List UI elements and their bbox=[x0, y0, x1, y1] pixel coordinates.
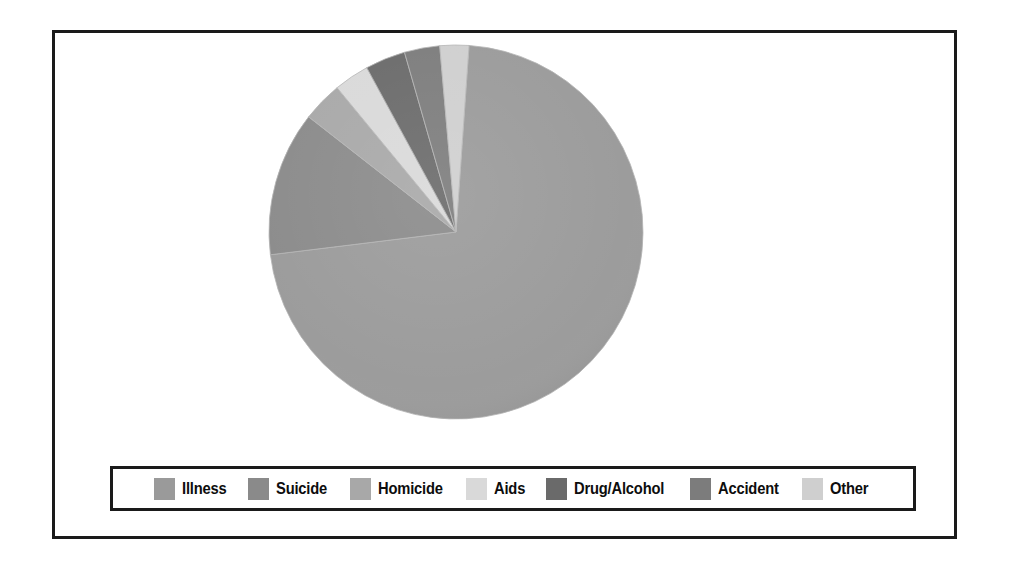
legend-item-drug-alcohol[interactable]: Drug/Alcohol bbox=[546, 478, 672, 500]
legend-swatch-icon bbox=[466, 478, 487, 500]
pie-chart bbox=[266, 42, 646, 422]
legend-item-aids[interactable]: Aids bbox=[466, 478, 528, 500]
legend-item-label: Accident bbox=[718, 480, 779, 498]
legend-item-label: Other bbox=[830, 480, 868, 498]
legend-swatch-icon bbox=[350, 478, 371, 500]
legend-swatch-icon bbox=[690, 478, 711, 500]
legend-item-suicide[interactable]: Suicide bbox=[248, 478, 332, 500]
legend-item-accident[interactable]: Accident bbox=[690, 478, 784, 500]
legend-item-illness[interactable]: Illness bbox=[154, 478, 230, 500]
legend-swatch-icon bbox=[546, 478, 567, 500]
chart-legend: IllnessSuicideHomicideAidsDrug/AlcoholAc… bbox=[110, 466, 916, 511]
chart-frame: IllnessSuicideHomicideAidsDrug/AlcoholAc… bbox=[52, 30, 957, 539]
legend-swatch-icon bbox=[802, 478, 823, 500]
pie-plot-area bbox=[55, 33, 954, 463]
legend-swatch-icon bbox=[248, 478, 269, 500]
legend-item-label: Homicide bbox=[378, 480, 443, 498]
legend-swatch-icon bbox=[154, 478, 175, 500]
pie-shading-overlay bbox=[269, 45, 643, 419]
legend-item-label: Suicide bbox=[276, 480, 327, 498]
legend-item-label: Drug/Alcohol bbox=[574, 480, 664, 498]
legend-item-other[interactable]: Other bbox=[802, 478, 872, 500]
legend-item-label: Illness bbox=[182, 480, 227, 498]
legend-item-label: Aids bbox=[494, 480, 525, 498]
legend-item-homicide[interactable]: Homicide bbox=[350, 478, 448, 500]
